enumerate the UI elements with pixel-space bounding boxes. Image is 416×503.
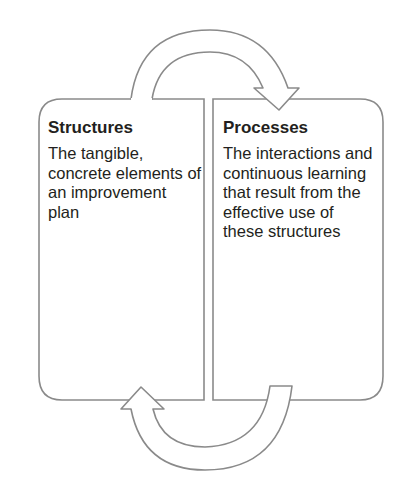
cycle-diagram	[0, 0, 416, 503]
structures-description: The tangible, concrete elements of an im…	[48, 144, 202, 222]
processes-description: The interactions and continuous learning…	[223, 144, 373, 242]
structures-title: Structures	[48, 118, 202, 138]
structures-content: Structures The tangible, concrete elemen…	[48, 118, 202, 222]
arrow-top-icon	[131, 30, 299, 110]
processes-content: Processes The interactions and continuou…	[223, 118, 373, 242]
processes-title: Processes	[223, 118, 373, 138]
